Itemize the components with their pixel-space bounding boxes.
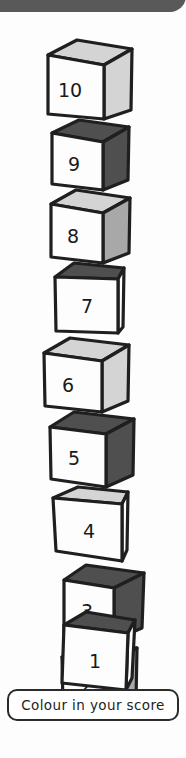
cube-9[interactable]: 9 [52,120,129,190]
cube-5-number: 5 [68,447,80,469]
cube-7-number: 7 [81,295,93,317]
cube-6-number: 6 [62,374,74,396]
cube-4[interactable]: 4 [53,487,128,561]
caption-text: Colour in your score [21,697,165,713]
cube-tower: 10 9 8 7 [0,0,186,700]
caption-box[interactable]: Colour in your score [7,689,179,721]
cube-10[interactable]: 10 [48,40,132,119]
cube-1[interactable]: 1 [62,612,135,690]
cube-6[interactable]: 6 [44,338,129,412]
cube-4-number: 4 [83,520,95,542]
cube-10-number: 10 [58,79,82,101]
cube-5[interactable]: 5 [50,412,134,487]
cube-7[interactable]: 7 [55,263,124,333]
cube-9-number: 9 [68,153,80,175]
score-cube-tower-page: 10 9 8 7 [0,0,186,758]
cube-8-number: 8 [67,225,79,247]
cube-8[interactable]: 8 [51,190,130,263]
cube-1-number: 1 [89,650,101,672]
